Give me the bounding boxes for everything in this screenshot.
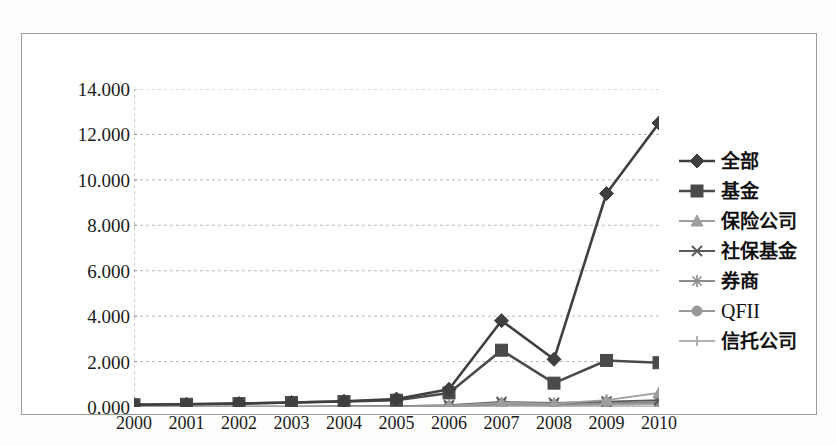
legend-item-3[interactable]: 社保基金 bbox=[677, 236, 827, 266]
y-tick-label: 2.000 bbox=[52, 353, 130, 372]
legend-label: 社保基金 bbox=[717, 242, 797, 261]
legend-item-4[interactable]: 券商 bbox=[677, 266, 827, 296]
axis-lines bbox=[134, 89, 659, 407]
x-tick-label: 2010 bbox=[641, 412, 677, 434]
scanned-page: 0.0002.0004.0006.0008.00010.00012.00014.… bbox=[0, 0, 836, 446]
x-tick-label: 2009 bbox=[589, 412, 625, 434]
x-axis: 2000200120022003200420052006200720082009… bbox=[134, 412, 659, 440]
star-marker-icon bbox=[677, 272, 717, 290]
y-tick-label: 10.000 bbox=[52, 171, 130, 190]
data-series bbox=[134, 116, 659, 407]
series-0 bbox=[134, 116, 659, 407]
legend-item-2[interactable]: 保险公司 bbox=[677, 206, 827, 236]
legend-item-5[interactable]: QFII bbox=[677, 296, 827, 326]
x-tick-label: 2007 bbox=[484, 412, 520, 434]
legend-label: 全部 bbox=[717, 152, 759, 171]
legend-item-6[interactable]: 信托公司 bbox=[677, 326, 827, 356]
square-marker-icon bbox=[677, 182, 717, 200]
x-tick-label: 2008 bbox=[536, 412, 572, 434]
chart-legend: 全部基金保险公司社保基金券商QFII信托公司 bbox=[677, 146, 827, 356]
chart-frame: 0.0002.0004.0006.0008.00010.00012.00014.… bbox=[21, 33, 817, 415]
legend-label: QFII bbox=[717, 302, 760, 321]
x-tick-label: 2004 bbox=[326, 412, 362, 434]
diamond-marker-icon bbox=[677, 152, 717, 170]
y-axis: 0.0002.0004.0006.0008.00010.00012.00014.… bbox=[52, 74, 130, 414]
legend-item-1[interactable]: 基金 bbox=[677, 176, 827, 206]
y-tick-label: 12.000 bbox=[52, 125, 130, 144]
triangle-marker-icon bbox=[677, 212, 717, 230]
legend-label: 保险公司 bbox=[717, 212, 797, 231]
legend-item-0[interactable]: 全部 bbox=[677, 146, 827, 176]
legend-label: 券商 bbox=[717, 272, 759, 291]
x-tick-label: 2001 bbox=[169, 412, 205, 434]
y-tick-label: 14.000 bbox=[52, 80, 130, 99]
cross-marker-icon bbox=[677, 242, 717, 260]
circle-marker-icon bbox=[677, 302, 717, 320]
legend-label: 信托公司 bbox=[717, 332, 797, 351]
x-tick-label: 2006 bbox=[431, 412, 467, 434]
line-chart-svg bbox=[134, 89, 659, 407]
x-tick-label: 2005 bbox=[379, 412, 415, 434]
x-tick-label: 2003 bbox=[274, 412, 310, 434]
plus-marker-icon bbox=[677, 332, 717, 350]
y-tick-label: 6.000 bbox=[52, 262, 130, 281]
y-tick-label: 8.000 bbox=[52, 216, 130, 235]
plot-area bbox=[134, 89, 659, 407]
gridlines bbox=[134, 89, 659, 407]
y-tick-label: 4.000 bbox=[52, 307, 130, 326]
legend-label: 基金 bbox=[717, 182, 759, 201]
x-tick-label: 2000 bbox=[116, 412, 152, 434]
x-tick-label: 2002 bbox=[221, 412, 257, 434]
